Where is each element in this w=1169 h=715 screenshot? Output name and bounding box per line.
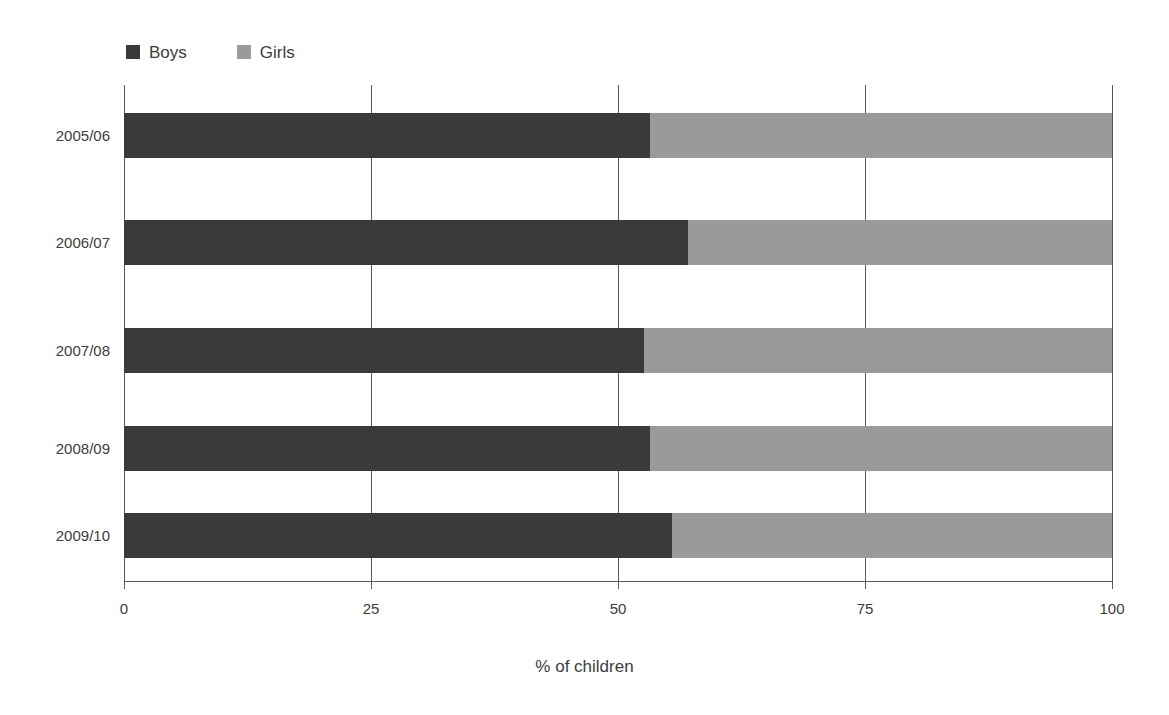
legend-label-boys: Boys (149, 44, 187, 61)
legend-label-girls: Girls (260, 44, 295, 61)
y-axis-labels: 2005/062006/072007/082008/092009/10 (0, 85, 110, 581)
x-tick-mark-50 (618, 581, 619, 589)
y-axis-label-2005-06: 2005/06 (10, 128, 110, 143)
bar-segment-boys[interactable] (124, 220, 688, 265)
gridline-100 (1112, 85, 1113, 581)
legend-item-girls[interactable]: Girls (237, 44, 295, 61)
x-tick-label-50: 50 (610, 601, 627, 616)
y-axis-label-2009-10: 2009/10 (10, 528, 110, 543)
bar-segment-girls[interactable] (650, 426, 1112, 471)
bar-row (124, 513, 1112, 558)
legend-swatch-girls (237, 45, 251, 59)
bar-segment-girls[interactable] (688, 220, 1112, 265)
bar-segment-girls[interactable] (650, 113, 1112, 158)
bar-row (124, 328, 1112, 373)
bar-segment-girls[interactable] (672, 513, 1112, 558)
x-tick-mark-0 (124, 581, 125, 589)
bar-segment-boys[interactable] (124, 513, 672, 558)
x-tick-label-75: 75 (857, 601, 874, 616)
bar-segment-boys[interactable] (124, 113, 650, 158)
chart-legend: Boys Girls (126, 41, 295, 63)
bar-row (124, 426, 1112, 471)
y-axis-label-2008-09: 2008/09 (10, 441, 110, 456)
bar-row (124, 113, 1112, 158)
y-axis-label-2006-07: 2006/07 (10, 235, 110, 250)
x-tick-mark-25 (371, 581, 372, 589)
x-tick-label-25: 25 (363, 601, 380, 616)
x-axis-title: % of children (0, 658, 1169, 675)
bar-segment-boys[interactable] (124, 426, 650, 471)
x-tick-mark-75 (865, 581, 866, 589)
x-tick-label-100: 100 (1099, 601, 1124, 616)
bar-row (124, 220, 1112, 265)
plot-area (124, 85, 1112, 581)
bar-segment-girls[interactable] (644, 328, 1112, 373)
x-tick-mark-100 (1112, 581, 1113, 589)
y-axis-label-2007-08: 2007/08 (10, 343, 110, 358)
x-tick-label-0: 0 (120, 601, 128, 616)
bar-segment-boys[interactable] (124, 328, 644, 373)
legend-item-boys[interactable]: Boys (126, 44, 187, 61)
stacked-bar-chart: Boys Girls 2005/062006/072007/082008/092… (0, 0, 1169, 715)
legend-swatch-boys (126, 45, 140, 59)
